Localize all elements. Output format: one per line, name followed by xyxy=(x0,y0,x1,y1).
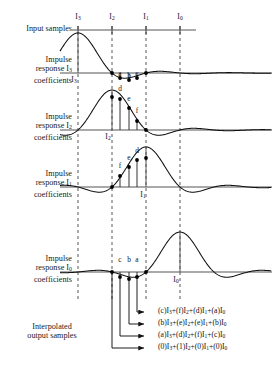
label-impulse-i2: Impulse response I2 coefficients xyxy=(0,112,72,143)
impulse-response-i1-sample-dot xyxy=(135,158,139,162)
impulse-i0-line2: response I xyxy=(36,263,69,272)
impulse-i3-sub: 3 xyxy=(69,68,72,74)
impulse-i1-line2: response I xyxy=(36,178,69,187)
impulse-response-i0-inline-tick: I0 xyxy=(167,275,185,284)
impulse-response-i2-coef-e: e xyxy=(125,94,133,103)
impulse-response-i3-sample-dot xyxy=(110,71,114,75)
sample-tick-I1: I1 xyxy=(137,12,155,21)
impulse-response-i2-coef-f: f xyxy=(133,106,141,115)
impulse-response-i3-curve xyxy=(60,33,271,78)
interpolation-filter-diagram: Input samples Impulse response I3 coeffi… xyxy=(0,0,276,367)
leader-eq-3 xyxy=(120,277,144,336)
impulse-response-i0-curve xyxy=(60,232,271,277)
impulse-response-i2-coef-d: d xyxy=(116,84,124,93)
impulse-response-i3-coef-c: c xyxy=(133,69,141,78)
label-impulse-i0: Impulse response I0 coefficients xyxy=(0,254,72,285)
impulse-response-i1-sample-dot xyxy=(144,156,148,160)
impulse-response-i2-sample-dot xyxy=(110,95,114,99)
impulse-response-i0-sample-dot xyxy=(144,270,148,274)
output-equation-eq-2: (b)I3+(e)I2+(e)I1+(b)I0 xyxy=(158,318,227,327)
impulse-response-i2-inline-tick: I2 xyxy=(99,132,117,141)
sample-tick-I0: I0 xyxy=(171,12,189,21)
label-impulse-i3: Impulse response I3 coefficients xyxy=(0,55,72,86)
impulse-response-i2-sample-dot xyxy=(144,128,148,132)
impulse-response-i3-sample-dot xyxy=(144,71,148,75)
impulse-i1-line3: coefficients xyxy=(34,190,72,199)
impulse-response-i3-coef-a: a xyxy=(116,69,124,78)
label-impulse-i1: Impulse response I1 coefficients xyxy=(0,169,72,200)
label-interpolated-output: Interpolated output samples xyxy=(0,322,104,341)
impulse-i2-line1: Impulse xyxy=(46,112,72,121)
leader-eq-4 xyxy=(112,272,144,348)
impulse-response-i3-coef-b: b xyxy=(125,71,133,80)
impulse-response-i1-sample-dot xyxy=(118,174,122,178)
leader-eq-2 xyxy=(129,279,144,324)
impulse-i2-sub: 2 xyxy=(69,125,72,131)
sample-tick-I3: I3 xyxy=(69,12,87,21)
impulse-i3-line2: response I xyxy=(36,64,69,73)
impulse-response-i0-coef-c: c xyxy=(116,255,124,264)
impulse-response-i1-coef-f: f xyxy=(116,161,124,170)
impulse-response-i2-sample-dot xyxy=(127,106,131,110)
impulse-response-i0-coef-b: b xyxy=(125,255,133,264)
impulse-i0-line1: Impulse xyxy=(46,254,72,263)
leader-eq-1 xyxy=(137,277,144,312)
impulse-i1-sub: 1 xyxy=(69,182,72,188)
impulse-response-i2-sample-dot xyxy=(118,97,122,101)
impulse-response-i3-inline-tick: I3 xyxy=(65,75,83,84)
output-equation-eq-1: (c)I3+(f)I2+(d)I1+(a)I0 xyxy=(158,306,225,315)
impulse-response-i1-sample-dot xyxy=(127,165,131,169)
impulse-response-i2-curve xyxy=(60,90,271,135)
label-input-samples: Input samples xyxy=(0,24,72,33)
impulse-response-i1-sample-dot xyxy=(110,185,114,189)
impulse-i0-sub: 0 xyxy=(69,267,72,273)
impulse-response-i1-coef-e: e xyxy=(125,153,133,162)
impulse-response-i1-curve xyxy=(60,147,271,192)
impulse-i2-line3: coefficients xyxy=(34,133,72,142)
interpolated-line2: output samples xyxy=(27,331,76,340)
impulse-response-i1-inline-tick: I1 xyxy=(134,190,152,199)
impulse-i0-line3: coefficients xyxy=(34,275,72,284)
output-equation-eq-3: (a)I3+(d)I2+(f)I1+(c)I0 xyxy=(158,330,225,339)
impulse-i2-line2: response I xyxy=(36,121,69,130)
impulse-i1-line1: Impulse xyxy=(46,169,72,178)
sample-tick-I2: I2 xyxy=(103,12,121,21)
output-equation-eq-4: (0)I3+(1)I2+(0)I1+(0)I0 xyxy=(158,342,227,351)
impulse-response-i2-sample-dot xyxy=(135,119,139,123)
impulse-response-i0-coef-a: a xyxy=(133,255,141,264)
impulse-i3-line1: Impulse xyxy=(46,55,72,64)
impulse-response-i1-coef-d: d xyxy=(133,146,141,155)
interpolated-line1: Interpolated xyxy=(32,322,72,331)
